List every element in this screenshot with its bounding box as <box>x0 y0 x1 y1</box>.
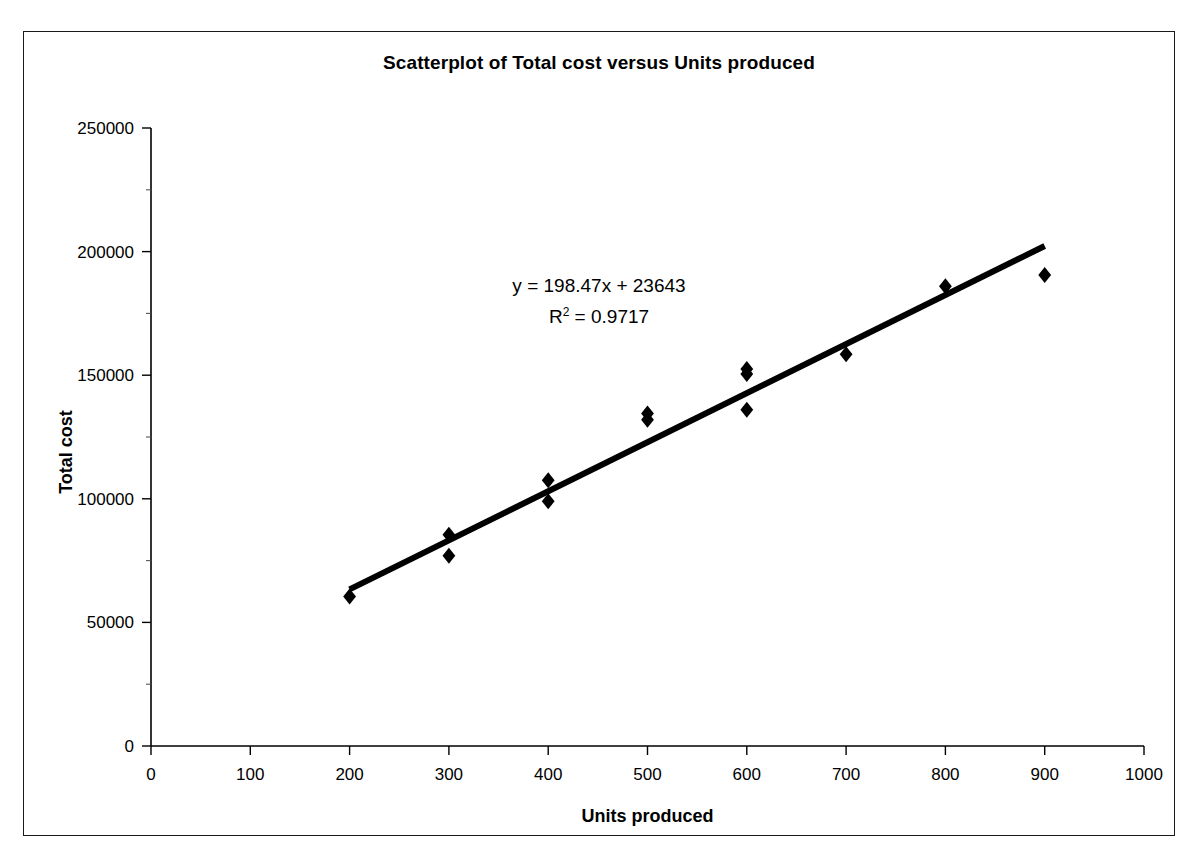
x-tick-label-1000: 1000 <box>1125 765 1163 784</box>
scatter-plot: 0 50000 100000 150000 200000 250000 Tota… <box>24 32 1176 837</box>
y-tick-label-150000: 150000 <box>77 366 134 385</box>
y-tick-label-0: 0 <box>125 737 134 756</box>
x-tick-label-400: 400 <box>534 765 562 784</box>
y-tick-label-50000: 50000 <box>87 613 134 632</box>
r-squared-prefix: R <box>549 306 563 327</box>
y-tick-label-100000: 100000 <box>77 490 134 509</box>
x-axis-title: Units produced <box>581 806 713 826</box>
x-tick-label-800: 800 <box>931 765 959 784</box>
y-axis: 0 50000 100000 150000 200000 250000 Tota… <box>56 119 151 756</box>
x-tick-label-600: 600 <box>733 765 761 784</box>
data-point <box>1038 267 1051 283</box>
x-tick-label-700: 700 <box>832 765 860 784</box>
y-axis-title: Total cost <box>56 410 76 494</box>
x-axis: 0 100 200 300 400 500 600 700 800 900 10… <box>146 746 1163 826</box>
chart-frame: Scatterplot of Total cost versus Units p… <box>23 31 1175 836</box>
x-tick-label-200: 200 <box>335 765 363 784</box>
y-tick-label-200000: 200000 <box>77 243 134 262</box>
regression-annotation: y = 198.47x + 23643 R2 = 0.9717 <box>512 275 685 327</box>
trend-line-layer <box>350 246 1045 589</box>
r-squared-label: R2 = 0.9717 <box>549 305 649 327</box>
x-tick-label-300: 300 <box>435 765 463 784</box>
regression-equation: y = 198.47x + 23643 <box>512 275 685 296</box>
r-squared-value: = 0.9717 <box>569 306 649 327</box>
data-point <box>343 588 356 604</box>
data-point <box>443 548 456 564</box>
figure-page: Scatterplot of Total cost versus Units p… <box>0 0 1199 863</box>
data-point <box>740 402 753 418</box>
x-tick-label-900: 900 <box>1031 765 1059 784</box>
y-tick-label-250000: 250000 <box>77 119 134 138</box>
data-points-layer <box>343 267 1051 604</box>
x-tick-label-0: 0 <box>146 765 155 784</box>
x-tick-label-500: 500 <box>633 765 661 784</box>
x-tick-label-100: 100 <box>236 765 264 784</box>
trend-line <box>350 246 1045 589</box>
